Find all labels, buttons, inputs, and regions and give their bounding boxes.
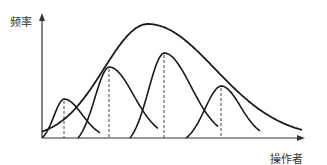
distribution-curve-3 [130,53,218,138]
distribution-curve-2 [78,67,158,138]
y-axis-label: 频率 [10,13,32,29]
distribution-curves [42,24,302,138]
x-axis-arrow-icon [297,135,305,141]
distribution-curve-1 [42,99,100,138]
distribution-curve-4 [186,86,260,138]
x-axis-label: 操作者 [270,150,303,165]
axes [39,13,305,141]
envelope-curve [42,24,302,132]
distribution-chart [0,0,327,165]
mean-lines [64,55,221,138]
y-axis-arrow-icon [39,13,45,21]
